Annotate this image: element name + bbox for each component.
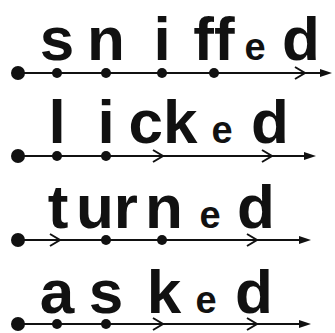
word-row-turned: turned <box>11 172 311 247</box>
segment-letter: e <box>195 279 216 321</box>
segment-dot-icon <box>52 68 62 78</box>
segment-dot-icon <box>52 319 62 329</box>
segment-letter: ff <box>193 4 235 73</box>
start-dot-icon <box>11 317 25 331</box>
start-dot-icon <box>11 233 25 247</box>
segment-letter: e <box>244 26 265 68</box>
word-row-asked: asked <box>11 257 311 331</box>
segment-dot-icon <box>101 319 111 329</box>
segment-letter: s <box>89 257 123 326</box>
word-row-licked: licked <box>11 87 316 163</box>
start-dot-icon <box>11 149 25 163</box>
segment-letter: ck <box>129 87 198 156</box>
arrowhead-icon <box>299 320 311 328</box>
word-row-sniffed: sniffed <box>11 4 332 80</box>
segment-letter: e <box>199 194 220 236</box>
segment-letter: d <box>235 257 273 326</box>
segment-letter: d <box>237 172 275 241</box>
segment-letter: d <box>251 87 289 156</box>
segment-letter: i <box>97 87 114 156</box>
segment-dot-icon <box>209 68 219 78</box>
segment-dot-icon <box>157 68 167 78</box>
segment-letter: a <box>40 257 75 326</box>
segment-letter: s <box>40 4 74 73</box>
arrowhead-icon <box>320 69 332 77</box>
segment-dot-icon <box>157 235 167 245</box>
segment-dot-icon <box>101 151 111 161</box>
start-dot-icon <box>11 66 25 80</box>
word-segment-diagram: sniffedlickedturnedasked <box>0 0 335 333</box>
segment-dot-icon <box>101 235 111 245</box>
segment-dot-icon <box>52 151 62 161</box>
arrowhead-icon <box>299 236 311 244</box>
segment-letter: d <box>282 4 320 73</box>
segment-letter: n <box>87 4 125 73</box>
segment-letter: t <box>48 172 69 241</box>
segment-letter: ur <box>76 172 138 241</box>
segment-letter: k <box>147 257 182 326</box>
arrowhead-icon <box>304 152 316 160</box>
segment-letter: n <box>145 172 183 241</box>
segment-letter: e <box>211 109 232 151</box>
segment-letter: l <box>48 87 65 156</box>
segment-dot-icon <box>101 68 111 78</box>
segment-letter: i <box>153 4 170 73</box>
